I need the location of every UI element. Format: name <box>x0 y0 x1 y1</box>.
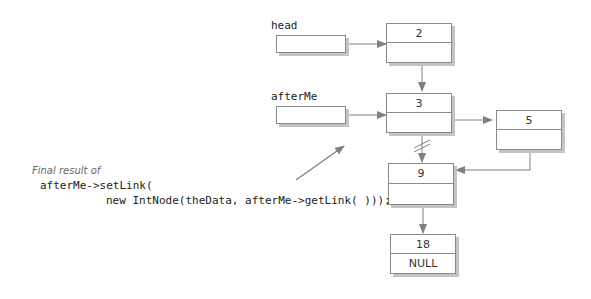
annotation-arrow <box>296 146 344 180</box>
node-2: 2 <box>386 23 452 63</box>
node-9: 9 <box>388 163 454 205</box>
code-line-1: afterMe->setLink( <box>40 179 153 192</box>
node-link <box>387 43 451 62</box>
afterme-pointer-box <box>276 106 346 124</box>
node-link <box>497 130 561 149</box>
node-data: 9 <box>389 164 453 184</box>
head-pointer-box <box>276 35 346 53</box>
node-data: 18 <box>391 235 455 254</box>
caption-title: Final result of <box>32 165 100 176</box>
node-18: 18 NULL <box>390 234 456 274</box>
node-data: 5 <box>497 111 561 130</box>
node-link <box>387 113 451 132</box>
node-5: 5 <box>496 110 562 150</box>
code-line-2: new IntNode(theData, afterMe->getLink( )… <box>106 194 391 207</box>
node-link: NULL <box>391 254 455 273</box>
node-3: 3 <box>386 93 452 133</box>
afterme-label: afterMe <box>271 90 317 103</box>
node-data: 2 <box>387 24 451 43</box>
node-data: 3 <box>387 94 451 113</box>
node-link <box>389 184 453 204</box>
head-label: head <box>271 19 298 32</box>
